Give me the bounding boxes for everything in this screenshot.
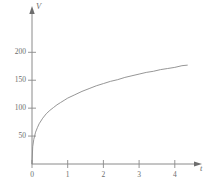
y-axis-tick-label: 200: [0, 47, 26, 56]
x-axis-tick-label: 0: [22, 170, 42, 179]
y-axis-tick-label: 50: [0, 131, 26, 140]
y-axis-arrowhead: [29, 6, 34, 14]
y-axis-tick-label: 150: [0, 75, 26, 84]
x-axis-tick-label: 4: [165, 170, 185, 179]
axis-lines: [29, 6, 202, 167]
figure-canvas: 50100150200 01234 V t: [0, 0, 215, 184]
plot-area: [0, 0, 215, 184]
x-axis-tick-label: 1: [58, 170, 78, 179]
y-axis-tick-label: 100: [0, 103, 26, 112]
x-axis-title: t: [200, 163, 202, 173]
x-axis-tick-label: 3: [129, 170, 149, 179]
data-curve-series-0: [32, 65, 187, 164]
x-axis-tick-label: 2: [93, 170, 113, 179]
y-axis-title: V: [36, 1, 41, 11]
